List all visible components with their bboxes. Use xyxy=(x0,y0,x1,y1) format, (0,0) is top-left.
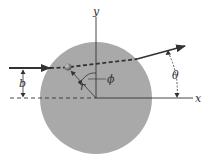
impact-parameter-label: b xyxy=(19,77,26,90)
incoming-dashed-path xyxy=(50,68,66,69)
radius-label: r xyxy=(80,80,86,93)
y-axis-label: y xyxy=(92,5,100,18)
azimuth-label: ϕ xyxy=(107,73,115,86)
scattering-diagram: y x b r ϕ θ xyxy=(0,0,206,162)
x-axis-label: x xyxy=(195,92,202,105)
b-arrow-bottom-icon xyxy=(21,93,26,98)
theta-arrow-bottom-icon xyxy=(175,93,180,98)
particle xyxy=(65,64,72,71)
b-arrow-top-icon xyxy=(21,70,26,75)
outgoing-trajectory-arrow xyxy=(137,46,185,59)
scattering-angle-label: θ xyxy=(172,69,179,82)
